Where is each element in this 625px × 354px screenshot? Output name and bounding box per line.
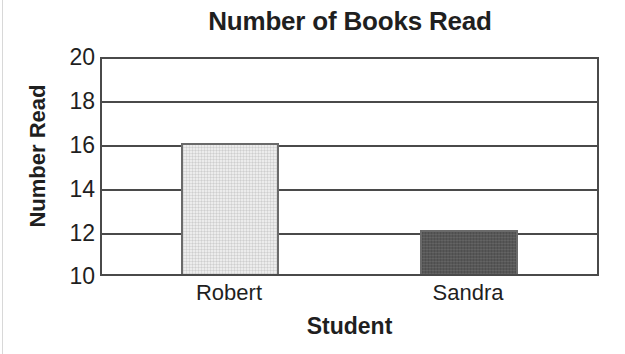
y-tick-label-10: 10 [25, 265, 95, 288]
bar-sandra[interactable] [420, 230, 518, 274]
x-tick-label-robert: Robert [139, 281, 319, 305]
chart-title: Number of Books Read [100, 6, 600, 37]
y-tick-label-12: 12 [25, 222, 95, 245]
y-tick-label-20: 20 [25, 46, 95, 69]
x-tick-label-sandra: Sandra [378, 281, 558, 305]
page-edge-line [2, 0, 3, 354]
gridline-18 [102, 101, 597, 103]
x-axis-title: Student [100, 313, 599, 340]
y-tick-label-18: 18 [25, 90, 95, 113]
gridline-12 [102, 233, 597, 235]
y-tick-label-16: 16 [25, 134, 95, 157]
gridline-16 [102, 145, 597, 147]
bar-robert[interactable] [181, 143, 279, 274]
bar-chart-figure: Number of Books Read Number Read 20 18 1… [0, 0, 625, 354]
plot-area [100, 57, 599, 276]
gridline-14 [102, 189, 597, 191]
y-tick-label-14: 14 [25, 178, 95, 201]
